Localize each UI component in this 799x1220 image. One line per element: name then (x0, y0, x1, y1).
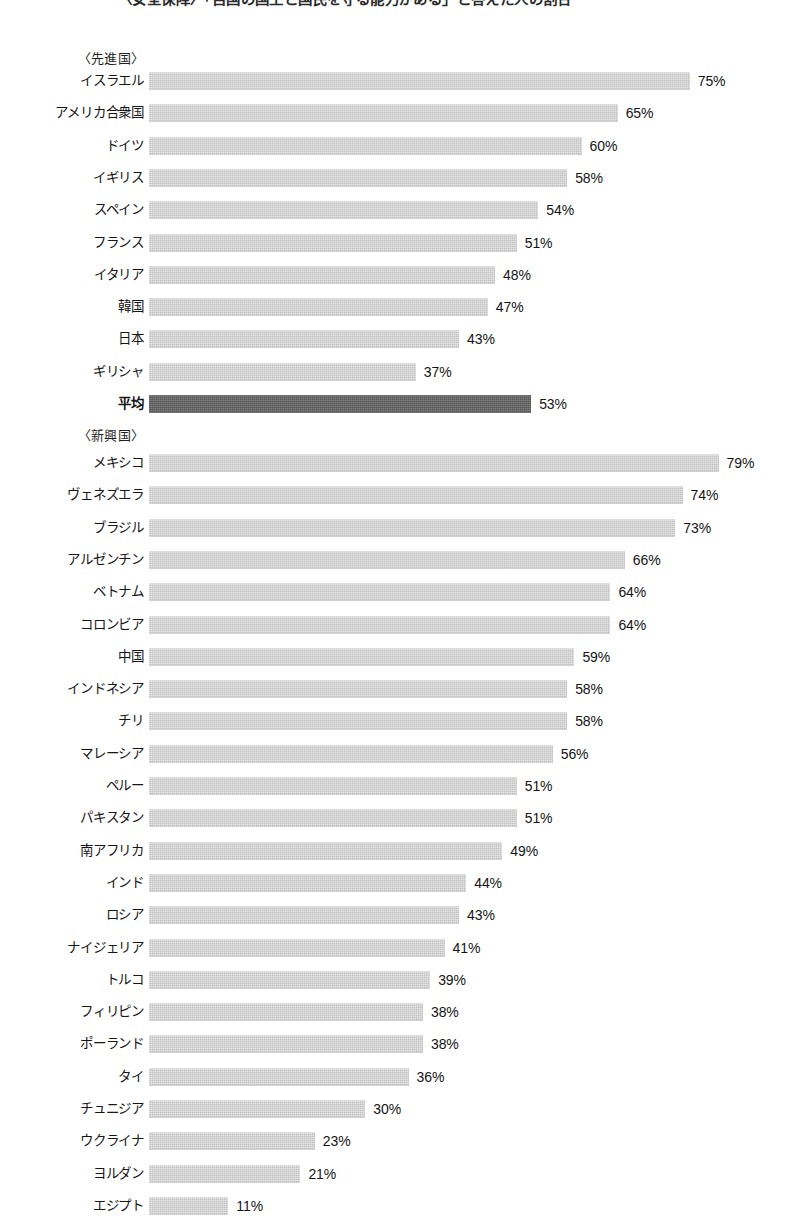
chart-row: パキスタン51% (0, 808, 799, 828)
chart-row: トルコ39% (0, 970, 799, 990)
category-label: イスラエル (0, 71, 144, 91)
bar-container (149, 971, 430, 989)
value-label: 47% (496, 297, 524, 317)
category-label: アルゼンチン (0, 550, 144, 570)
category-label: ヴェネズエラ (0, 485, 144, 505)
category-label: ポーランド (0, 1034, 144, 1054)
value-label: 51% (525, 776, 553, 796)
bar (149, 551, 625, 569)
category-label: ギリシャ (0, 362, 144, 382)
bar (149, 648, 574, 666)
value-label: 54% (546, 200, 574, 220)
bar-container (149, 874, 466, 892)
category-label: ヨルダン (0, 1164, 144, 1184)
chart-row: コロンビア64% (0, 615, 799, 635)
value-label: 79% (727, 453, 755, 473)
bar-container (149, 1035, 423, 1053)
value-label: 39% (438, 970, 466, 990)
bar-container (149, 1003, 423, 1021)
category-label: 中国 (0, 647, 144, 667)
category-label: インド (0, 873, 144, 893)
category-label: チュニジア (0, 1099, 144, 1119)
value-label: 43% (467, 905, 495, 925)
value-label: 51% (525, 233, 553, 253)
chart-row: ペルー51% (0, 776, 799, 796)
category-label: インドネシア (0, 679, 144, 699)
value-label: 44% (474, 873, 502, 893)
bar-container (149, 809, 517, 827)
category-label: ロシア (0, 905, 144, 925)
bar (149, 363, 416, 381)
chart-row: チリ58% (0, 711, 799, 731)
value-label: 66% (633, 550, 661, 570)
bar (149, 330, 459, 348)
category-label: フランス (0, 233, 144, 253)
category-label: マレーシア (0, 744, 144, 764)
category-label: 南アフリカ (0, 841, 144, 861)
value-label: 74% (691, 485, 719, 505)
bar-container (149, 395, 531, 413)
bar (149, 1003, 423, 1021)
bar-container (149, 1132, 315, 1150)
category-label: 平均 (0, 394, 144, 414)
bar (149, 971, 430, 989)
category-label: ベトナム (0, 582, 144, 602)
bar (149, 1165, 300, 1183)
bar (149, 583, 610, 601)
value-label: 60% (590, 136, 618, 156)
bar (149, 777, 517, 795)
value-label: 21% (308, 1164, 336, 1184)
bar-chart: 〈先進国〉イスラエル75%アメリカ合衆国65%ドイツ60%イギリス58%スペイン… (0, 0, 799, 1220)
value-label: 37% (424, 362, 452, 382)
chart-row: ナイジェリア41% (0, 938, 799, 958)
chart-row: イタリア48% (0, 265, 799, 285)
chart-row: タイ36% (0, 1067, 799, 1087)
bar (149, 680, 567, 698)
category-label: 日本 (0, 329, 144, 349)
bar-container (149, 519, 675, 537)
bar (149, 454, 719, 472)
bar-container (149, 551, 625, 569)
bar-container (149, 712, 567, 730)
chart-row: インドネシア58% (0, 679, 799, 699)
category-label: チリ (0, 711, 144, 731)
category-label: フィリピン (0, 1002, 144, 1022)
section-header-developed: 〈先進国〉 (78, 48, 144, 67)
category-label: タイ (0, 1067, 144, 1087)
bar-container (149, 104, 618, 122)
value-label: 64% (618, 582, 646, 602)
category-label: エジプト (0, 1196, 144, 1216)
chart-row: ギリシャ37% (0, 362, 799, 382)
value-label: 36% (417, 1067, 445, 1087)
value-label: 58% (575, 168, 603, 188)
bar-container (149, 616, 610, 634)
category-label: スペイン (0, 200, 144, 220)
bar (149, 519, 675, 537)
bar-container (149, 363, 416, 381)
category-label: ドイツ (0, 136, 144, 156)
bar-container (149, 137, 582, 155)
bar-container (149, 169, 567, 187)
category-label: パキスタン (0, 808, 144, 828)
category-label: ナイジェリア (0, 938, 144, 958)
bar (149, 906, 459, 924)
bar-container (149, 72, 690, 90)
bar-container (149, 1100, 365, 1118)
bar-container (149, 680, 567, 698)
bar (149, 1132, 315, 1150)
bar (149, 842, 502, 860)
bar-average (149, 395, 531, 413)
chart-row: 南アフリカ49% (0, 841, 799, 861)
bar-container (149, 266, 495, 284)
value-label: 30% (373, 1099, 401, 1119)
chart-row: インド44% (0, 873, 799, 893)
category-label: イギリス (0, 168, 144, 188)
value-label: 59% (582, 647, 610, 667)
chart-row: スペイン54% (0, 200, 799, 220)
category-label: ペルー (0, 776, 144, 796)
chart-row: ロシア43% (0, 905, 799, 925)
chart-row: アルゼンチン66% (0, 550, 799, 570)
value-label: 64% (618, 615, 646, 635)
category-label: ウクライナ (0, 1131, 144, 1151)
chart-row: 日本43% (0, 329, 799, 349)
